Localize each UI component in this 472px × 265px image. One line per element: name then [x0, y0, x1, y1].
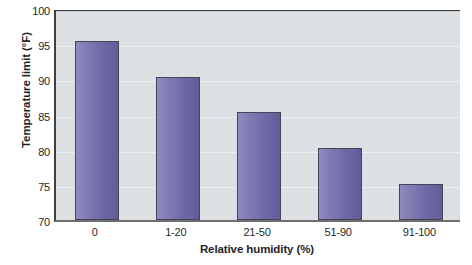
- y-axis-tick-label: 95: [4, 40, 50, 52]
- x-axis-title: Relative humidity (%): [54, 243, 460, 255]
- bar: [318, 148, 362, 220]
- y-axis-tick-label: 85: [4, 111, 50, 123]
- gridline: [56, 11, 460, 12]
- x-axis-tick-label: 0: [92, 226, 98, 238]
- bar: [237, 112, 281, 220]
- bar: [399, 184, 443, 220]
- x-axis-tick-label: 91-100: [403, 226, 436, 238]
- x-axis-tick-label: 51-90: [325, 226, 352, 238]
- y-axis-tick-label: 90: [4, 75, 50, 87]
- bar: [156, 77, 200, 220]
- y-axis-tick-labels: 707580859095100: [0, 0, 50, 265]
- x-axis-tick-label: 21-50: [243, 226, 270, 238]
- bar-chart: Temperature limit (°F) 707580859095100 0…: [0, 0, 472, 265]
- bar: [75, 41, 119, 220]
- y-axis-tick-label: 70: [4, 216, 50, 228]
- plot-area: [54, 11, 460, 222]
- y-axis-tick-label: 80: [4, 146, 50, 158]
- plot-inner: [56, 11, 460, 220]
- y-axis-tick-label: 100: [4, 5, 50, 17]
- y-axis-tick-label: 75: [4, 181, 50, 193]
- x-axis-tick-label: 1-20: [165, 226, 186, 238]
